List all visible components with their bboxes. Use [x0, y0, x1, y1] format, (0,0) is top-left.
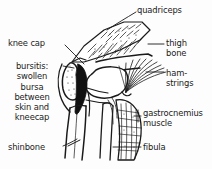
label-bursitis-line5: skin and	[15, 102, 49, 112]
label-gastrocnemius-line1: gastrocnemius	[143, 108, 203, 118]
label-knee-cap-text: knee cap	[8, 38, 45, 48]
label-gastrocnemius-muscle: gastrocnemiusmuscle	[143, 108, 203, 129]
quadriceps-muscle-shape	[72, 22, 150, 62]
label-bursitis-line1: bursitis:	[16, 61, 48, 71]
fibula-bone-shape	[100, 103, 113, 160]
label-thigh-bone: thighbone	[166, 38, 187, 59]
label-hamstrings-line2: strings	[166, 78, 193, 88]
label-hamstrings: ham-strings	[166, 68, 193, 89]
label-fibula: fibula	[143, 142, 165, 152]
label-quadriceps-text: quadriceps	[137, 5, 182, 15]
hamstring-muscles-shape	[119, 59, 166, 96]
knee-anatomy-diagram: quadriceps thighbone ham-strings gastroc…	[0, 0, 212, 169]
label-bursitis-line2: swollen	[17, 71, 47, 81]
label-shinbone-text: shinbone	[8, 142, 45, 152]
label-bursitis: bursitis:swollenbursabetweenskin andknee…	[0, 61, 64, 123]
label-knee-cap: knee cap	[8, 38, 70, 48]
label-bursitis-line3: bursa	[21, 82, 44, 92]
label-hamstrings-line1: ham-	[166, 68, 187, 78]
label-thigh-bone-line1: thigh	[166, 38, 187, 48]
label-thigh-bone-line2: bone	[166, 48, 186, 58]
label-bursitis-line4: between	[14, 92, 49, 102]
label-gastrocnemius-line2: muscle	[143, 118, 172, 128]
label-bursitis-line6: kneecap	[15, 112, 49, 122]
label-shinbone: shinbone	[8, 142, 66, 152]
label-fibula-text: fibula	[143, 142, 165, 152]
label-quadriceps: quadriceps	[137, 5, 182, 15]
